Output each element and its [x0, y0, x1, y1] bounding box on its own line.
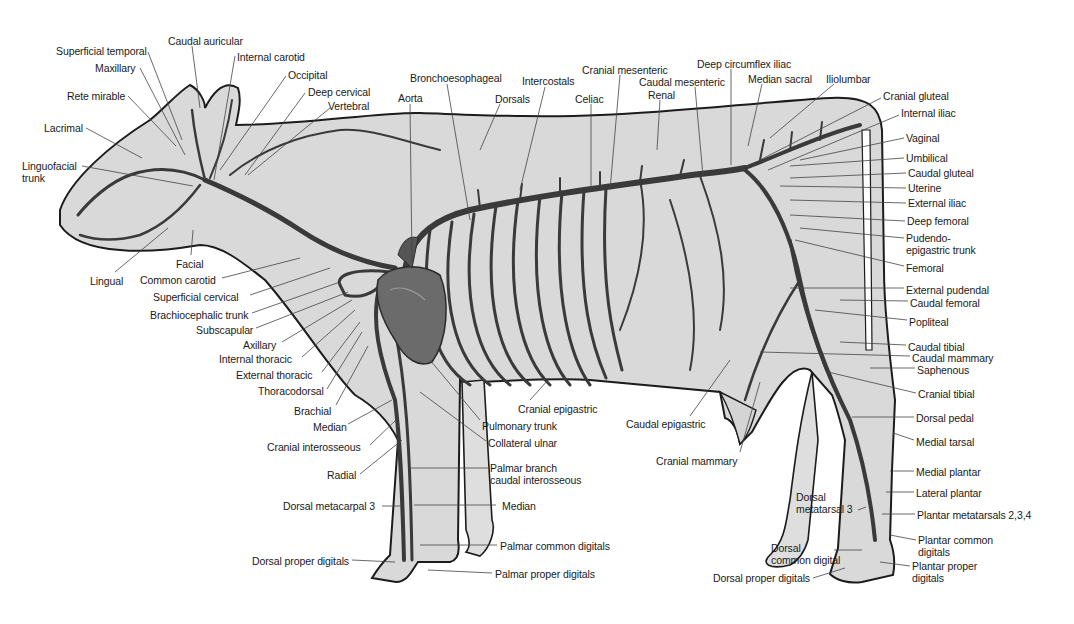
- artery-label-saphenous: Saphenous: [917, 364, 969, 376]
- artery-label-linguofacial-trunk: Linguofacial trunk: [22, 160, 77, 184]
- artery-label-median: Median: [313, 421, 347, 433]
- artery-label-iliolumbar: Iliolumbar: [826, 73, 871, 85]
- artery-label-medial-tarsal: Medial tarsal: [916, 436, 974, 448]
- artery-label-internal-iliac: Internal iliac: [901, 107, 956, 119]
- artery-label-lacrimal: Lacrimal: [44, 122, 83, 134]
- artery-label-caudal-femoral: Caudal femoral: [910, 297, 980, 309]
- artery-label-cranial-gluteal: Cranial gluteal: [883, 90, 949, 102]
- artery-label-caudal-auricular: Caudal auricular: [168, 35, 243, 47]
- artery-label-external-pudendal: External pudendal: [906, 284, 989, 296]
- label-layer: Superficial temporalCaudal auricularInte…: [0, 0, 1074, 624]
- artery-label-celiac: Celiac: [575, 93, 604, 105]
- artery-label-dorsal-proper-digitals: Dorsal proper digitals: [713, 572, 810, 584]
- artery-label-internal-thoracic: Internal thoracic: [219, 353, 292, 365]
- artery-label-collateral-ulnar: Collateral ulnar: [488, 437, 557, 449]
- artery-label-thoracodorsal: Thoracodorsal: [258, 385, 324, 397]
- artery-label-vertebral: Vertebral: [328, 100, 369, 112]
- artery-label-pulmonary-trunk: Pulmonary trunk: [482, 420, 557, 432]
- artery-label-common-carotid: Common carotid: [140, 274, 216, 286]
- artery-label-dorsal-proper-digitals: Dorsal proper digitals: [252, 555, 349, 567]
- artery-label-superficial-temporal: Superficial temporal: [56, 45, 147, 57]
- artery-label-pudendo-epigastric-trunk: Pudendo- epigastric trunk: [906, 232, 976, 256]
- artery-label-brachial: Brachial: [294, 405, 331, 417]
- artery-label-dorsals: Dorsals: [495, 93, 530, 105]
- artery-label-plantar-proper-digitals: Plantar proper digitals: [912, 560, 977, 584]
- artery-label-axillary: Axillary: [243, 339, 276, 351]
- artery-label-plantar-common-digitals: Plantar common digitals: [918, 534, 993, 558]
- artery-label-uterine: Uterine: [908, 182, 941, 194]
- artery-label-brachiocephalic-trunk: Brachiocephalic trunk: [150, 309, 248, 321]
- artery-label-umbilical: Umbilical: [906, 152, 948, 164]
- artery-label-dorsal-metacarpal-3: Dorsal metacarpal 3: [283, 500, 375, 512]
- artery-label-external-iliac: External iliac: [908, 197, 966, 209]
- artery-label-renal: Renal: [648, 89, 675, 101]
- artery-label-palmar-branch-caudal-interosseous: Palmar branch caudal interosseous: [490, 462, 582, 486]
- artery-label-vaginal: Vaginal: [906, 132, 940, 144]
- artery-label-caudal-mammary: Caudal mammary: [912, 352, 993, 364]
- artery-label-caudal-epigastric: Caudal epigastric: [626, 418, 705, 430]
- artery-label-lateral-plantar: Lateral plantar: [916, 487, 982, 499]
- artery-label-deep-circumflex-iliac: Deep circumflex iliac: [697, 58, 791, 70]
- artery-label-cranial-interosseous: Cranial interosseous: [267, 441, 361, 453]
- artery-label-cranial-epigastric: Cranial epigastric: [518, 403, 597, 415]
- artery-label-subscapular: Subscapular: [196, 324, 253, 336]
- artery-label-median: Median: [502, 500, 536, 512]
- artery-label-bronchoesophageal: Bronchoesophageal: [410, 72, 502, 84]
- artery-label-caudal-gluteal: Caudal gluteal: [908, 167, 974, 179]
- artery-label-intercostals: Intercostals: [522, 75, 575, 87]
- artery-label-dorsal-common-digital: Dorsal common digital: [771, 542, 840, 566]
- artery-label-palmar-proper-digitals: Palmar proper digitals: [495, 568, 595, 580]
- artery-label-femoral: Femoral: [906, 262, 944, 274]
- artery-label-popliteal: Popliteal: [909, 316, 948, 328]
- artery-label-deep-femoral: Deep femoral: [907, 215, 969, 227]
- artery-label-dorsal-metatarsal-3: Dorsal metatarsal 3: [796, 491, 853, 515]
- artery-label-plantar-metatarsals-2-3-4: Plantar metatarsals 2,3,4: [917, 509, 1031, 521]
- artery-label-median-sacral: Median sacral: [748, 73, 812, 85]
- artery-label-maxillary: Maxillary: [95, 62, 136, 74]
- artery-label-dorsal-pedal: Dorsal pedal: [916, 412, 974, 424]
- artery-label-deep-cervical: Deep cervical: [308, 86, 370, 98]
- artery-label-cranial-tibial: Cranial tibial: [918, 388, 974, 400]
- artery-label-medial-plantar: Medial plantar: [916, 466, 981, 478]
- artery-label-aorta: Aorta: [398, 92, 423, 104]
- artery-label-external-thoracic: External thoracic: [236, 369, 313, 381]
- artery-label-internal-carotid: Internal carotid: [237, 51, 305, 63]
- artery-label-superficial-cervical: Superficial cervical: [153, 291, 239, 303]
- artery-label-radial: Radial: [327, 469, 356, 481]
- artery-label-palmar-common-digitals: Palmar common digitals: [500, 540, 610, 552]
- artery-label-occipital: Occipital: [288, 69, 327, 81]
- artery-label-lingual: Lingual: [90, 275, 123, 287]
- artery-label-rete-mirable: Rete mirable: [67, 90, 125, 102]
- artery-label-cranial-mesenteric: Cranial mesenteric: [582, 64, 668, 76]
- artery-label-facial: Facial: [176, 258, 203, 270]
- artery-label-cranial-mammary: Cranial mammary: [656, 455, 737, 467]
- artery-label-caudal-mesenteric: Caudal mesenteric: [639, 76, 725, 88]
